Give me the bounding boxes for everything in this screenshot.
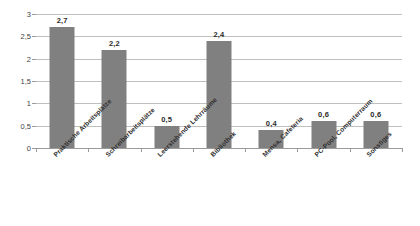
x-axis-tick-mark xyxy=(245,148,246,152)
x-axis-tick-mark xyxy=(141,148,142,152)
bar-chart: 00,511,522,53 2,72,20,52,40,40,60,6 Prak… xyxy=(0,0,420,226)
bar-group: 2,4 xyxy=(193,14,245,148)
bar-value-label: 0,5 xyxy=(161,115,172,124)
bar xyxy=(206,41,231,148)
y-axis-tick-label: 0,5 xyxy=(0,121,31,130)
y-axis-tick-label: 1,5 xyxy=(0,77,31,86)
x-axis-tick-mark xyxy=(88,148,89,152)
bar-value-label: 0,4 xyxy=(266,119,277,128)
x-axis-tick-mark xyxy=(193,148,194,152)
x-axis-tick-mark xyxy=(350,148,351,152)
bar-group: 0,6 xyxy=(350,14,402,148)
y-axis-tick-label: 1 xyxy=(0,99,31,108)
bar-value-label: 0,6 xyxy=(318,110,329,119)
y-axis-tick-label: 2 xyxy=(0,54,31,63)
y-axis-tick-label: 2,5 xyxy=(0,32,31,41)
x-axis-tick-mark xyxy=(297,148,298,152)
bar-value-label: 0,6 xyxy=(370,110,381,119)
bar-value-label: 2,7 xyxy=(57,16,68,25)
bar-value-label: 2,4 xyxy=(213,30,224,39)
bar-value-label: 2,2 xyxy=(109,39,120,48)
x-axis-tick-mark xyxy=(402,148,403,152)
x-axis-tick-mark xyxy=(36,148,37,152)
y-axis-tick-label: 0 xyxy=(0,144,31,153)
y-axis-tick-label: 3 xyxy=(0,10,31,19)
bar xyxy=(50,27,75,148)
